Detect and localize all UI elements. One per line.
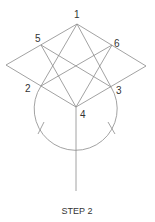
geometric-construction-diagram: 1 5 6 2 3 4 STEP 2	[0, 0, 155, 222]
point-label-5: 5	[35, 33, 41, 44]
step-caption: STEP 2	[62, 206, 93, 216]
point-label-6: 6	[114, 38, 120, 49]
arc-tick-right	[108, 122, 115, 134]
point-label-3: 3	[116, 85, 122, 96]
point-label-2: 2	[25, 83, 31, 94]
point-label-4: 4	[80, 109, 86, 120]
point-label-1: 1	[74, 9, 80, 20]
line-6-4	[76, 45, 112, 107]
